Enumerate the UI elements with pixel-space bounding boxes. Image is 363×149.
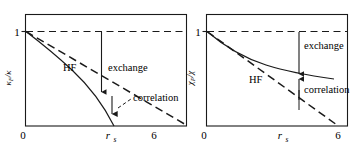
- right-exchange-label: exchange: [304, 40, 344, 51]
- figure-container: HF exchange correlation 1 0 6 r s κF/κ: [0, 0, 363, 149]
- right-series-exact: [207, 32, 334, 80]
- left-x-axis-label-main: r: [106, 129, 111, 141]
- left-xtick-label-6: 6: [151, 129, 157, 141]
- right-correlation-label: correlation: [304, 84, 350, 95]
- right-hf-label: HF: [249, 74, 263, 85]
- right-xtick-label-6: 6: [335, 129, 341, 141]
- left-correlation-leader: [118, 99, 131, 108]
- left-xtick-label-0: 0: [20, 129, 26, 141]
- right-y-axis-label-text: χP/χ: [185, 70, 196, 86]
- left-x-axis-label: r s: [106, 129, 117, 144]
- figure-svg: HF exchange correlation 1 0 6 r s κF/κ: [0, 0, 363, 149]
- right-y-axis-label: χP/χ: [185, 70, 196, 86]
- left-exchange-label: exchange: [108, 62, 148, 73]
- right-x-axis-label-main: r: [278, 129, 283, 141]
- right-x-axis-label-sub: s: [286, 135, 289, 144]
- left-y-axis-label: κF/κ: [3, 70, 14, 86]
- left-y-axis-den: κ: [3, 70, 13, 75]
- left-x-axis-label-sub: s: [114, 135, 117, 144]
- left-panel: HF exchange correlation 1 0 6 r s κF/κ: [3, 15, 187, 145]
- left-series-exact: [26, 32, 114, 127]
- left-hf-label: HF: [63, 62, 77, 73]
- left-correlation-label: correlation: [133, 92, 179, 103]
- left-ytick-label-1: 1: [14, 26, 20, 38]
- right-panel: HF exchange correlation 1 0 6 r s χP/χ: [185, 15, 350, 145]
- right-x-axis-label: r s: [278, 129, 289, 144]
- left-y-axis-label-text: κF/κ: [3, 70, 14, 86]
- right-xtick-label-0: 0: [201, 129, 207, 141]
- right-ytick-label-1: 1: [195, 26, 201, 38]
